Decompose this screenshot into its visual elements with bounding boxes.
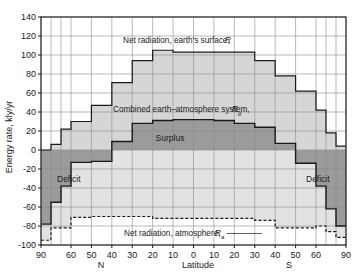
y-tick-label: -20 bbox=[23, 164, 36, 174]
y-tick-label: 100 bbox=[21, 50, 36, 60]
x-tick-label: 10 bbox=[209, 250, 219, 260]
annotation-rg-text: Combined earth–atmosphere system, bbox=[113, 105, 250, 114]
hemisphere-label-south: S bbox=[286, 260, 292, 270]
chart-figure: 140120100806040200-20-40-60-80-100 90605… bbox=[0, 0, 356, 273]
x-tick-label: 50 bbox=[86, 250, 96, 260]
annotation-ra-text: Net radiation, atmosphere, bbox=[124, 229, 220, 238]
y-tick-label: 60 bbox=[26, 88, 36, 98]
x-tick-label: 40 bbox=[270, 250, 280, 260]
x-tick-label: 90 bbox=[341, 250, 351, 260]
y-tick-label: 120 bbox=[21, 31, 36, 41]
y-tick-label: 80 bbox=[26, 69, 36, 79]
annotation-r-text: Net radiation, earth's surface, bbox=[123, 36, 230, 45]
x-tick-label: 0 bbox=[191, 250, 196, 260]
y-tick-label: 40 bbox=[26, 107, 36, 117]
y-tick-label: 0 bbox=[31, 145, 36, 155]
y-tick-label: -100 bbox=[18, 240, 36, 250]
x-tick-label: 90 bbox=[36, 250, 46, 260]
x-tick-label: 50 bbox=[291, 250, 301, 260]
x-tick-label: 20 bbox=[229, 250, 239, 260]
annotation-r-symbol: R bbox=[225, 36, 231, 45]
energy-rate-latitude-chart: 140120100806040200-20-40-60-80-100 90605… bbox=[0, 0, 356, 273]
x-tick-label: 40 bbox=[107, 250, 117, 260]
hemisphere-label-north: N bbox=[98, 260, 105, 270]
x-axis-title: Latitude bbox=[182, 260, 214, 270]
x-tick-label: 30 bbox=[250, 250, 260, 260]
x-tick-label: 60 bbox=[311, 250, 321, 260]
y-axis-title: Energy rate, kly/yr bbox=[4, 101, 14, 174]
annotation-r: Net radiation, earth's surface, R bbox=[123, 36, 231, 45]
y-tick-label: 20 bbox=[26, 126, 36, 136]
y-tick-label: -40 bbox=[23, 183, 36, 193]
x-tick-label: 60 bbox=[66, 250, 76, 260]
x-tick-label: 30 bbox=[127, 250, 137, 260]
y-tick-label: -60 bbox=[23, 202, 36, 212]
region-label-deficit-north: Deficit bbox=[57, 174, 81, 184]
region-label-deficit-south: Deficit bbox=[306, 174, 330, 184]
y-tick-label: -80 bbox=[23, 221, 36, 231]
region-label-surplus: Surplus bbox=[156, 133, 185, 143]
x-tick-label: 20 bbox=[148, 250, 158, 260]
x-tick-label: 10 bbox=[168, 250, 178, 260]
y-tick-label: 140 bbox=[21, 12, 36, 22]
